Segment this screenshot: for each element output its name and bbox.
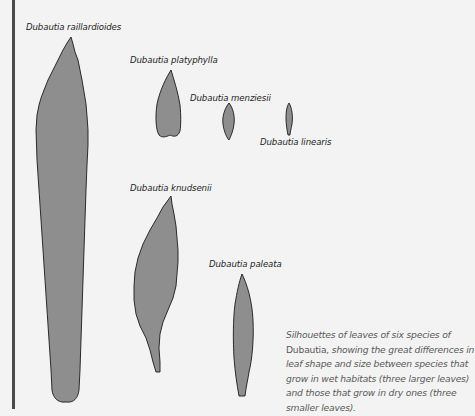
caption-genus: Dubautia [286, 344, 326, 355]
label-menziesii: Dubautia menziesii [190, 93, 271, 103]
leaf-knudsenii [134, 196, 178, 372]
leaf-paleata [233, 274, 253, 396]
figure-caption: Silhouettes of leaves of six species of … [286, 328, 475, 416]
label-knudsenii: Dubautia knudsenii [130, 183, 212, 193]
label-linearis: Dubautia linearis [260, 137, 331, 147]
leaf-linearis [286, 103, 292, 135]
label-platyphylla: Dubautia platyphylla [130, 55, 218, 65]
leaf-platyphylla [156, 70, 181, 137]
label-paleata: Dubautia paleata [209, 259, 282, 269]
label-raillardioides: Dubautia raillardioides [26, 22, 121, 32]
leaf-menziesii [223, 103, 234, 140]
caption-part1: Silhouettes of leaves of six species of [286, 329, 451, 340]
leaf-raillardioides [36, 37, 88, 402]
